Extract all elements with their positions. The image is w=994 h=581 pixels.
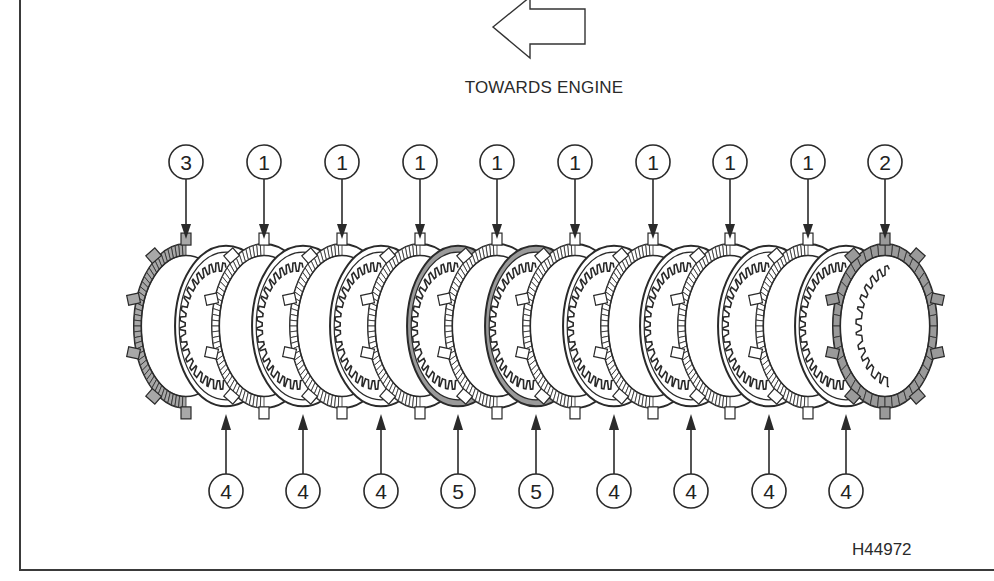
bottom-callouts: 444554444 (209, 414, 863, 508)
figure-id: H44972 (852, 540, 912, 560)
top-callout-3: 1 (325, 145, 359, 239)
callout-number: 1 (258, 151, 270, 174)
callout-number: 1 (647, 151, 659, 174)
callout-number: 3 (180, 151, 192, 174)
callout-number: 5 (530, 480, 542, 503)
bottom-callout-4: 5 (441, 414, 475, 508)
towards-engine-label: TOWARDS ENGINE (0, 78, 994, 98)
bottom-callout-8: 4 (752, 414, 786, 508)
arrow-up-icon (453, 414, 463, 430)
towards-engine-arrow-icon (493, 0, 585, 58)
arrow-up-icon (531, 414, 541, 430)
arrow-up-icon (298, 414, 308, 430)
arrow-up-icon (841, 414, 851, 430)
callout-number: 4 (763, 480, 775, 503)
top-callout-8: 1 (713, 145, 747, 239)
bottom-callout-7: 4 (674, 414, 708, 508)
top-callout-10: 2 (868, 145, 902, 239)
callout-number: 1 (414, 151, 426, 174)
callout-number: 2 (879, 151, 891, 174)
clutch-plates (127, 233, 945, 419)
callout-number: 4 (220, 480, 232, 503)
diagram-frame: 3111111112 444554444 TOWARDS ENGINE H449… (0, 0, 994, 581)
top-callout-9: 1 (791, 145, 825, 239)
callout-number: 4 (840, 480, 852, 503)
bottom-callout-3: 4 (364, 414, 398, 508)
top-callout-2: 1 (247, 145, 281, 239)
callout-number: 4 (297, 480, 309, 503)
top-callouts: 3111111112 (169, 145, 902, 239)
callout-number: 4 (685, 480, 697, 503)
callout-number: 5 (452, 480, 464, 503)
bottom-callout-2: 4 (286, 414, 320, 508)
arrow-up-icon (376, 414, 386, 430)
callout-number: 1 (802, 151, 814, 174)
arrow-up-icon (609, 414, 619, 430)
callout-number: 1 (336, 151, 348, 174)
arrow-up-icon (221, 414, 231, 430)
callout-number: 1 (569, 151, 581, 174)
callout-number: 1 (724, 151, 736, 174)
arrow-up-icon (764, 414, 774, 430)
callout-number: 1 (491, 151, 503, 174)
top-callout-5: 1 (480, 145, 514, 239)
bottom-callout-5: 5 (519, 414, 553, 508)
bottom-callout-1: 4 (209, 414, 243, 508)
bottom-callout-9: 4 (829, 414, 863, 508)
top-callout-1: 3 (169, 145, 203, 239)
top-callout-4: 1 (403, 145, 437, 239)
callout-number: 4 (375, 480, 387, 503)
bottom-callout-6: 4 (597, 414, 631, 508)
top-callout-7: 1 (636, 145, 670, 239)
top-callout-6: 1 (558, 145, 592, 239)
arrow-up-icon (686, 414, 696, 430)
callout-number: 4 (608, 480, 620, 503)
